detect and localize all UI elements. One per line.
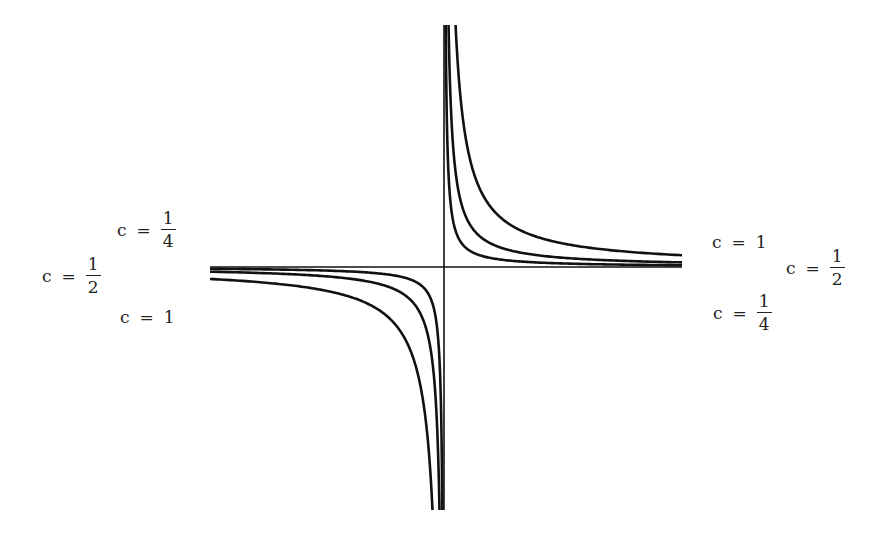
label-value: 1 (756, 232, 767, 252)
hyperbola-c-1-quadrant-1 (456, 25, 682, 255)
hyperbola-c-1-2-quadrant-3 (210, 272, 439, 510)
label-equals: = (62, 266, 76, 286)
denominator: 4 (759, 313, 770, 333)
fraction: 14 (161, 210, 176, 250)
numerator: 1 (161, 210, 176, 230)
numerator: 1 (757, 293, 772, 313)
label-equals: = (806, 258, 820, 278)
label-var: c (120, 307, 130, 327)
label-var: c (117, 220, 127, 240)
label-equals: = (140, 307, 154, 327)
label-left-c-one: c = 1 (120, 307, 175, 327)
denominator: 4 (163, 230, 174, 250)
denominator: 2 (832, 268, 843, 288)
hyperbola-plot (0, 0, 889, 543)
label-right-c-half: c = 12 (786, 248, 845, 288)
hyperbola-c-1-4-quadrant-3 (210, 269, 442, 510)
label-right-c-quarter: c = 14 (713, 293, 772, 333)
numerator: 1 (86, 256, 101, 276)
label-equals: = (732, 232, 746, 252)
label-right-c-one: c = 1 (712, 232, 767, 252)
label-left-c-half: c = 12 (42, 256, 101, 296)
label-equals: = (733, 303, 747, 323)
fraction: 14 (757, 293, 772, 333)
label-var: c (786, 258, 796, 278)
label-value: 1 (164, 307, 175, 327)
fraction: 12 (830, 248, 845, 288)
label-var: c (713, 303, 723, 323)
fraction: 12 (86, 256, 101, 296)
hyperbola-c-1-4-quadrant-1 (446, 25, 682, 265)
label-equals: = (137, 220, 151, 240)
hyperbola-c-1-quadrant-3 (210, 279, 432, 510)
denominator: 2 (88, 276, 99, 296)
label-var: c (712, 232, 722, 252)
hyperbola-diagram: c = 14 c = 12 c = 1 c = 1 c = 12 c = 14 (0, 0, 889, 543)
label-left-c-quarter: c = 14 (117, 210, 176, 250)
hyperbola-c-1-2-quadrant-1 (449, 25, 682, 262)
numerator: 1 (830, 248, 845, 268)
label-var: c (42, 266, 52, 286)
